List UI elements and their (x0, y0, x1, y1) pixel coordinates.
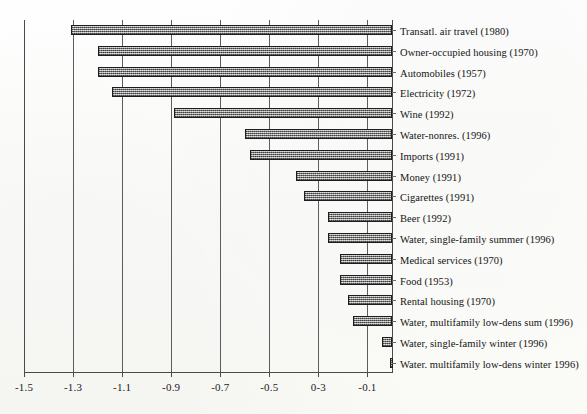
category-label: Beer (1992) (400, 213, 451, 224)
category-label: Water, multifamily low-dens sum (1996) (400, 317, 573, 328)
row-tick (392, 280, 396, 281)
bar (340, 275, 392, 285)
category-label: Wine (1992) (400, 109, 454, 120)
category-label: Rental housing (1970) (400, 296, 495, 307)
gridline--1-5 (24, 20, 25, 372)
x-tick (73, 372, 74, 377)
row-tick (392, 92, 396, 93)
row-tick (392, 155, 396, 156)
x-axis-line (24, 372, 393, 373)
bar (245, 129, 392, 139)
row-tick (392, 238, 396, 239)
category-label: Cigarettes (1991) (400, 192, 474, 203)
bar (328, 233, 392, 243)
bar (98, 67, 392, 77)
category-label: Medical services (1970) (400, 255, 503, 266)
bar (353, 316, 392, 326)
category-label: Water, single-family summer (1996) (400, 234, 554, 245)
x-tick (367, 372, 368, 377)
category-label: Money (1991) (400, 172, 461, 183)
bar (250, 150, 392, 160)
gridline--1-3 (73, 20, 74, 372)
row-tick (392, 113, 396, 114)
bar (328, 212, 392, 222)
category-label: Owner-occupied housing (1970) (400, 47, 538, 58)
row-tick (392, 176, 396, 177)
x-tick (318, 372, 319, 377)
bar (382, 337, 392, 347)
row-tick (392, 342, 396, 343)
bar (340, 254, 392, 264)
row-tick (392, 363, 396, 364)
row-tick (392, 51, 396, 52)
category-label: Water. multifamily low-dens winter 1996) (400, 359, 579, 370)
row-tick (392, 134, 396, 135)
bar (71, 25, 392, 35)
row-tick (392, 321, 396, 322)
bar (112, 87, 392, 97)
bar (348, 295, 392, 305)
category-label: Water-nonres. (1996) (400, 130, 490, 141)
figure-canvas: -1.5-1.3-1.1-0.9-0.7-0.50-3-0.1 Transatl… (0, 0, 587, 414)
x-tick (269, 372, 270, 377)
bar (98, 46, 392, 56)
row-tick (392, 259, 396, 260)
category-label: Electricity (1972) (400, 88, 475, 99)
x-tick (220, 372, 221, 377)
category-label: Water, single-family winter (1996) (400, 338, 547, 349)
category-label: Imports (1991) (400, 151, 464, 162)
bar (296, 171, 392, 181)
category-label: Automobiles (1957) (400, 68, 486, 79)
row-tick (392, 196, 396, 197)
row-tick (392, 30, 396, 31)
bar (304, 191, 392, 201)
category-label: Transatl. air travel (1980) (400, 26, 509, 37)
row-tick (392, 217, 396, 218)
x-tick (171, 372, 172, 377)
x-tick (24, 372, 25, 377)
x-tick (122, 372, 123, 377)
row-tick (392, 300, 396, 301)
bar (174, 108, 392, 118)
x-tick-label: -0.1 (337, 381, 397, 393)
category-label: Food (1953) (400, 276, 453, 287)
row-tick (392, 72, 396, 73)
